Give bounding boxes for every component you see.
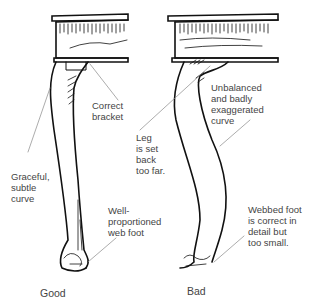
label-unbalanced-curve: Unbalanced and badly exaggerated curve	[211, 82, 264, 126]
caption-bad: Bad	[187, 285, 206, 297]
bad-table-apron	[168, 14, 278, 62]
good-leg	[51, 62, 89, 271]
good-table-apron	[52, 14, 128, 62]
label-graceful-curve: Graceful, subtle curve	[11, 171, 50, 204]
label-correct-bracket: Correct bracket	[92, 100, 123, 122]
label-webbed-foot-bad: Webbed foot is correct in detail but too…	[248, 204, 302, 248]
label-leg-set-back: Leg is set back too far.	[136, 132, 165, 176]
caption-good: Good	[40, 287, 66, 299]
label-web-foot-good: Well- proportioned web foot	[108, 205, 161, 238]
